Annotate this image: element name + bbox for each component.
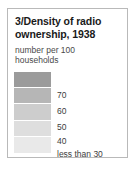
legend-swatch-less-than-30 [14, 137, 51, 153]
legend-scale: 70 60 50 40 less than 30 [14, 72, 126, 153]
legend-swatch-column [14, 72, 51, 153]
figure-title: 3/Density of radio ownership, 1938 [15, 15, 123, 40]
figure-subtitle-units: number per 100 households [15, 45, 115, 65]
legend-label-70: 70 [57, 91, 66, 100]
legend-label-60: 60 [57, 107, 66, 116]
legend-figure-panel: 3/Density of radio ownership, 1938 numbe… [7, 8, 128, 158]
legend-swatch-70 [14, 72, 51, 88]
legend-swatch-40 [14, 121, 51, 137]
legend-swatch-50 [14, 104, 51, 120]
legend-label-less-than-30: less than 30 [57, 150, 103, 159]
legend-label-column: 70 60 50 40 less than 30 [57, 72, 126, 153]
legend-label-40: 40 [57, 137, 66, 146]
legend-swatch-60 [14, 88, 51, 104]
legend-label-50: 50 [57, 123, 66, 132]
